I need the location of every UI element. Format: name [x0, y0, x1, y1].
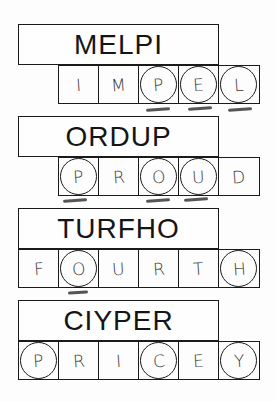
answer-letter: P	[73, 166, 85, 187]
answer-row: P R I C E Y	[18, 341, 260, 380]
answer-cell[interactable]: I	[99, 342, 139, 379]
answer-letter: F	[33, 258, 44, 279]
answer-cell[interactable]: E	[179, 342, 219, 379]
pencil-mark-icon	[188, 106, 212, 111]
answer-cell[interactable]: T	[179, 250, 219, 287]
answer-letter: U	[112, 258, 126, 279]
answer-letter: E	[192, 74, 204, 95]
answer-letter: H	[232, 258, 246, 279]
answer-cell-circled[interactable]: L	[219, 66, 259, 103]
answer-cell-circled[interactable]: P	[19, 342, 59, 379]
answer-letter: T	[193, 258, 205, 279]
answer-row: F O U R T H	[18, 249, 260, 288]
answer-letter: D	[232, 166, 246, 187]
answer-cell-circled[interactable]: H	[219, 250, 259, 287]
answer-cell[interactable]: F	[19, 250, 59, 287]
answer-cell[interactable]: D	[219, 158, 259, 195]
pencil-mark-icon	[146, 198, 170, 203]
answer-letter: L	[234, 74, 245, 95]
scrambled-word: CIYPER	[18, 300, 219, 341]
answer-letter: R	[152, 258, 165, 279]
answer-cell-circled[interactable]: P	[139, 66, 179, 103]
answer-cell-circled[interactable]: O	[59, 250, 99, 287]
answer-letter: R	[112, 166, 125, 187]
answer-letter: Y	[233, 350, 245, 371]
answer-cell-circled[interactable]: C	[139, 342, 179, 379]
answer-letter: P	[153, 74, 165, 95]
answer-row: P R O U D	[58, 157, 260, 196]
answer-letter: E	[192, 350, 204, 371]
answer-cell[interactable]: M	[99, 66, 139, 103]
answer-letter: O	[71, 258, 86, 279]
answer-cell-circled[interactable]: P	[59, 158, 99, 195]
answer-letter: R	[72, 350, 85, 371]
answer-cell[interactable]: R	[59, 342, 99, 379]
answer-cell-circled[interactable]: O	[139, 158, 179, 195]
scrambled-word: TURFHO	[18, 208, 219, 249]
answer-letter: I	[75, 74, 81, 94]
answer-cell[interactable]: U	[99, 250, 139, 287]
answer-cell-circled[interactable]: U	[179, 158, 219, 195]
answer-letter: M	[110, 74, 126, 95]
pencil-mark-icon	[68, 290, 88, 294]
answer-cell-circled[interactable]: E	[179, 66, 219, 103]
answer-cell[interactable]: R	[139, 250, 179, 287]
answer-cell[interactable]: R	[99, 158, 139, 195]
answer-letter: U	[192, 166, 206, 187]
answer-row: I M P E L	[58, 65, 260, 104]
pencil-mark-icon	[184, 197, 208, 202]
answer-letter: P	[33, 350, 45, 371]
answer-letter: C	[152, 350, 165, 371]
scrambled-word: MELPI	[18, 24, 219, 65]
answer-cell[interactable]: I	[59, 66, 99, 103]
pencil-mark-icon	[146, 107, 170, 112]
answer-letter: O	[151, 166, 166, 187]
pencil-mark-icon	[228, 107, 252, 112]
pencil-mark-icon	[63, 198, 87, 203]
scrambled-word: ORDUP	[18, 116, 219, 157]
answer-letter: I	[115, 350, 121, 370]
answer-cell-circled[interactable]: Y	[219, 342, 259, 379]
